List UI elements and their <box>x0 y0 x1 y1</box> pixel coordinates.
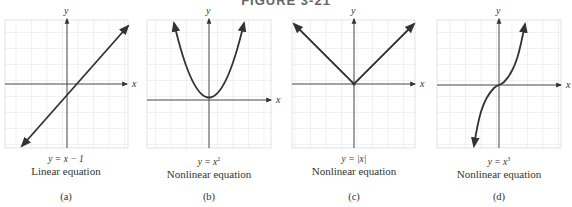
panel-letter-a: (a) <box>0 191 146 202</box>
graphs-canvas: x y x y x y x y <box>0 0 572 160</box>
x-label-a: x <box>131 78 137 89</box>
caption-d: y = x3 Nonlinear equation (d) <box>419 153 572 181</box>
graph-a: x y <box>5 5 137 148</box>
equation-c: y = |x| <box>274 153 434 165</box>
panel-letter-b: (b) <box>129 191 289 202</box>
description-b: Nonlinear equation <box>129 168 289 181</box>
x-label-d: x <box>565 79 571 90</box>
y-label-c: y <box>350 5 356 16</box>
caption-b: y = x2 Nonlinear equation (b) <box>129 153 289 181</box>
description-c: Nonlinear equation <box>274 165 434 178</box>
x-label-b: x <box>275 94 281 105</box>
equation-a: y = x − 1 <box>0 153 146 165</box>
graph-d: x y <box>437 5 571 148</box>
description-a: Linear equation <box>0 165 146 178</box>
panel-letter-c: (c) <box>274 191 434 202</box>
caption-c: y = |x| Nonlinear equation (c) <box>274 153 434 178</box>
y-label-a: y <box>63 5 69 16</box>
equation-d: y = x3 <box>419 153 572 168</box>
description-d: Nonlinear equation <box>419 168 572 181</box>
y-label-d: y <box>495 5 501 16</box>
x-label-c: x <box>419 78 425 89</box>
graph-b: x y <box>147 5 281 148</box>
equation-b: y = x2 <box>129 153 289 168</box>
graph-c: x y <box>292 5 425 148</box>
y-label-b: y <box>205 5 211 16</box>
panel-letter-d: (d) <box>419 191 572 202</box>
caption-a: y = x − 1 Linear equation (a) <box>0 153 146 178</box>
